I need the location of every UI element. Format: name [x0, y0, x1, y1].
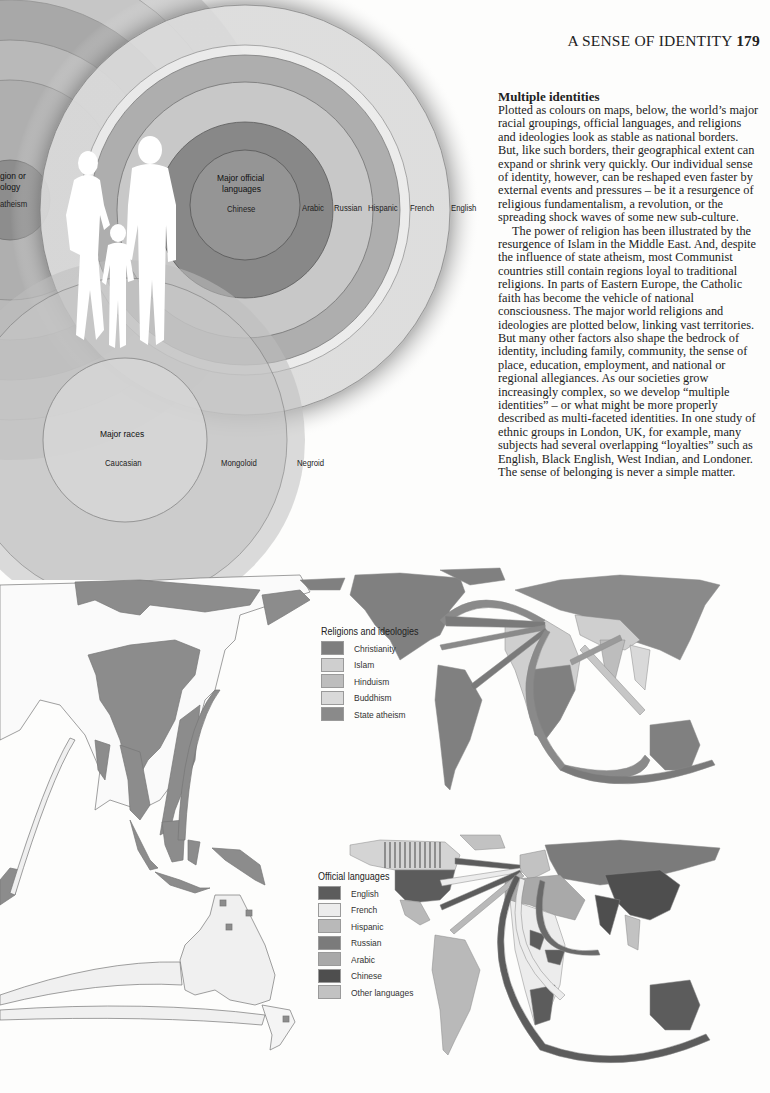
legend-label: Buddhism — [354, 692, 392, 703]
religion-label-atheism: atheism — [0, 199, 27, 209]
running-head: A SENSE OF IDENTITY 179 — [540, 32, 760, 50]
religion-title-line1: gion or — [0, 170, 26, 181]
state-atheism-swatch — [321, 707, 344, 721]
languages-title-line2: languages — [222, 183, 261, 194]
races-title: Major races — [100, 428, 144, 439]
running-head-title: A SENSE OF IDENTITY — [567, 32, 732, 49]
buddhism-swatch — [321, 691, 344, 705]
legend-item-russian: Russian — [318, 935, 420, 952]
languages-title-line1: Major official — [217, 172, 264, 183]
legend-item-other-languages: Other languages — [318, 984, 420, 1001]
russian-swatch — [318, 936, 341, 950]
legend-item-chinese: Chinese — [318, 968, 420, 985]
legend-label: English — [351, 888, 379, 899]
religion-title-line2: ology — [0, 181, 20, 192]
christianity-swatch — [321, 641, 344, 655]
legend-item-islam: Islam — [321, 657, 429, 674]
language-ring-chinese: Chinese — [227, 204, 255, 214]
circles-graphic — [0, 0, 500, 580]
legend-item-state-atheism: State atheism — [321, 706, 429, 723]
language-ring-arabic: Arabic — [302, 203, 324, 213]
languages-legend-title: Official languages — [318, 871, 410, 882]
legend-label: Islam — [354, 659, 374, 670]
page-number: 179 — [736, 32, 760, 49]
article-paragraph-2: The power of religion has been illustrat… — [498, 225, 760, 480]
other-languages-swatch — [318, 985, 341, 999]
arabic-swatch — [318, 952, 341, 966]
french-swatch — [318, 903, 341, 917]
religions-legend-title: Religions and ideologies — [321, 626, 419, 637]
legend-label: Arabic — [351, 954, 375, 965]
language-ring-russian: Russian — [334, 203, 362, 213]
legend-item-arabic: Arabic — [318, 951, 420, 968]
legend-label: Hispanic — [351, 921, 383, 932]
legend-item-christianity: Christianity — [321, 640, 429, 657]
chinese-swatch — [318, 969, 341, 983]
identity-circles-diagram: gion or ology atheism Major official lan… — [0, 0, 500, 580]
legend-item-english: English — [318, 885, 420, 902]
article-paragraph-1: Plotted as colours on maps, below, the w… — [498, 104, 760, 225]
hispanic-swatch — [318, 919, 341, 933]
legend-label: Chinese — [351, 970, 382, 981]
legend-label: State atheism — [354, 709, 406, 720]
race-ring-caucasian: Caucasian — [105, 458, 142, 468]
legend-item-hispanic: Hispanic — [318, 918, 420, 935]
article: Multiple identities Plotted as colours o… — [498, 90, 760, 479]
islam-swatch — [321, 658, 344, 672]
language-ring-hispanic: Hispanic — [368, 203, 398, 213]
religions-legend: Religions and ideologies Christianity Is… — [321, 626, 429, 723]
legend-item-buddhism: Buddhism — [321, 690, 429, 707]
legend-item-hinduism: Hinduism — [321, 673, 429, 690]
legend-label: Hinduism — [354, 676, 389, 687]
race-ring-mongoloid: Mongoloid — [221, 458, 257, 468]
legend-label: Christianity — [354, 643, 396, 654]
race-ring-negroid: Negroid — [297, 458, 324, 468]
legend-label: Russian — [351, 937, 381, 948]
hinduism-swatch — [321, 674, 344, 688]
legend-label: French — [351, 904, 377, 915]
legend-item-french: French — [318, 902, 420, 919]
maps-area: Religions and ideologies Christianity Is… — [0, 565, 770, 1093]
language-ring-english: English — [451, 203, 476, 213]
english-swatch — [318, 886, 341, 900]
languages-legend: Official languages English French Hispan… — [318, 871, 420, 1001]
legend-label: Other languages — [351, 987, 413, 998]
language-ring-french: French — [410, 203, 434, 213]
article-heading: Multiple identities — [498, 90, 760, 104]
races-map — [0, 575, 310, 1050]
